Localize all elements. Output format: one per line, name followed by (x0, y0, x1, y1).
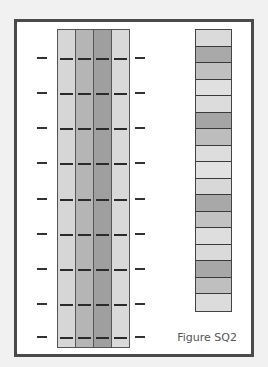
gel-band (60, 93, 73, 95)
gel-band (96, 58, 109, 60)
strip-segment (196, 228, 231, 245)
gel-band (114, 58, 127, 60)
gel-band (60, 234, 73, 236)
size-marker (135, 127, 145, 129)
gel-band (60, 163, 73, 165)
gel-band (60, 58, 73, 60)
figure-frame: Figure SQ2 (14, 19, 254, 357)
gel-band (96, 269, 109, 271)
size-marker (37, 303, 47, 305)
size-marker (37, 57, 47, 59)
gel-band (78, 199, 91, 201)
size-marker (135, 233, 145, 235)
strip-segment (196, 179, 231, 196)
gel-lanes (57, 29, 130, 348)
size-marker (135, 303, 145, 305)
gel-band (60, 269, 73, 271)
gel-band (114, 304, 127, 306)
strip-segment (196, 294, 231, 311)
gel-band (114, 128, 127, 130)
gel-band (96, 128, 109, 130)
strip-segment (196, 245, 231, 262)
size-marker (37, 268, 47, 270)
size-marker (37, 336, 47, 338)
strip-segment (196, 80, 231, 97)
strip-segment (196, 146, 231, 163)
strip-segment (196, 96, 231, 113)
gel-band (114, 269, 127, 271)
size-marker (135, 162, 145, 164)
strip-segment (196, 278, 231, 295)
strip-segment (196, 63, 231, 80)
gel-band (96, 234, 109, 236)
size-marker (37, 162, 47, 164)
size-marker (135, 268, 145, 270)
lane-1 (58, 30, 76, 347)
size-marker (135, 198, 145, 200)
strip-segment (196, 195, 231, 212)
figure-caption: Figure SQ2 (177, 331, 237, 344)
size-marker (135, 336, 145, 338)
gel-band (78, 337, 91, 339)
gel-band (114, 234, 127, 236)
gel-band (60, 128, 73, 130)
lane-3 (94, 30, 112, 347)
gel-band (78, 304, 91, 306)
size-marker (37, 198, 47, 200)
strip-segment (196, 129, 231, 146)
gel-band (60, 304, 73, 306)
gel-band (96, 304, 109, 306)
gel-band (78, 58, 91, 60)
gel-band (114, 163, 127, 165)
gel-band (78, 128, 91, 130)
lane-2 (76, 30, 94, 347)
gel-band (96, 199, 109, 201)
gel-band (78, 93, 91, 95)
gel-band (60, 337, 73, 339)
strip-segment (196, 162, 231, 179)
strip-segment (196, 212, 231, 229)
strip-segment (196, 30, 231, 47)
lane-4 (112, 30, 129, 347)
gel-band (96, 337, 109, 339)
strip-segment (196, 113, 231, 130)
gel-band (114, 337, 127, 339)
gel-band (114, 199, 127, 201)
gel-band (78, 163, 91, 165)
gel-band (78, 269, 91, 271)
size-marker (37, 233, 47, 235)
gel-band (60, 199, 73, 201)
gel-band (96, 163, 109, 165)
size-marker (135, 92, 145, 94)
gel-band (78, 234, 91, 236)
gel-band (114, 93, 127, 95)
strip-segment (196, 261, 231, 278)
size-marker (37, 127, 47, 129)
size-marker (135, 57, 145, 59)
strip-segment (196, 47, 231, 64)
size-marker (37, 92, 47, 94)
gel-band (96, 93, 109, 95)
color-strip (195, 29, 232, 312)
